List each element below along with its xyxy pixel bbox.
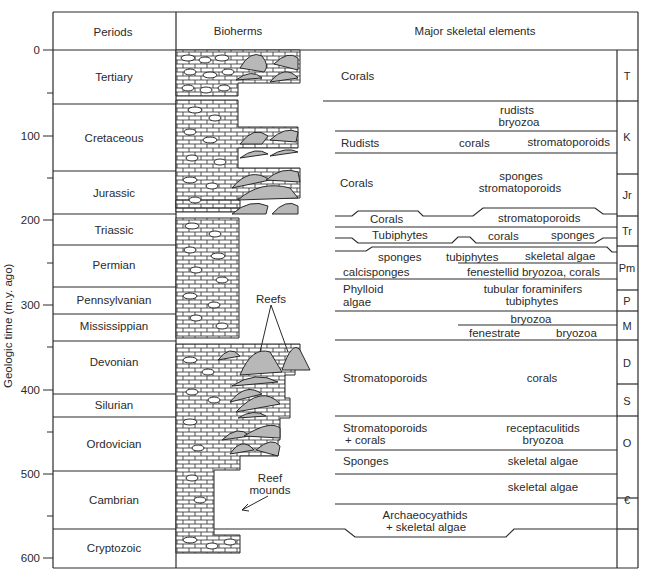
period-cretaceous: Cretaceous xyxy=(85,132,144,144)
skel-tertiary-corals: Corals xyxy=(341,70,374,82)
symbol-mississippian: M xyxy=(622,320,631,332)
skel-pm-tubiphytes: tubiphytes xyxy=(446,251,498,263)
skel-k-rudists-main: Rudists xyxy=(341,137,379,149)
skel-o-receptaculitids: receptaculitids xyxy=(506,422,580,434)
period-cryptozoic: Cryptozoic xyxy=(87,542,141,554)
annotation-reef-mounds-2: mounds xyxy=(250,484,291,496)
period-jurassic: Jurassic xyxy=(93,187,135,199)
skel-m-bryozoa: bryozoa xyxy=(511,313,552,325)
skel-k-bryozoa: bryozoa xyxy=(499,116,540,128)
skel-o-stromatoporoids: Stromatoporoids xyxy=(343,422,427,434)
skel-j-sponges: sponges xyxy=(499,170,542,182)
y-axis-label: Geologic time (m.y. ago) xyxy=(2,264,14,388)
period-cambrian: Cambrian xyxy=(89,494,139,506)
period-devonian: Devonian xyxy=(90,356,139,368)
symbol-permian: Pm xyxy=(619,262,636,274)
period-silurian: Silurian xyxy=(95,399,133,411)
skel-pm-skeletal-algae: skeletal algae xyxy=(525,250,595,262)
symbol-tertiary: T xyxy=(624,70,631,82)
period-permian: Permian xyxy=(93,259,136,271)
skel-pm-fenestellid: fenestellid bryozoa, corals xyxy=(467,266,600,278)
skel-o-bryozoa: bryozoa xyxy=(523,434,564,446)
symbol-cambrian: € xyxy=(624,494,630,506)
period-mississippian: Mississippian xyxy=(80,320,148,332)
skel-m-bryozoa-2: bryozoa xyxy=(556,327,597,339)
annotation-reefs: Reefs xyxy=(256,293,286,305)
skel-tr-corals: Corals xyxy=(370,213,403,225)
y-tick-200: 200 xyxy=(21,214,40,226)
symbol-pennsylvanian: P xyxy=(623,295,630,307)
skel-j-corals: Corals xyxy=(340,177,373,189)
skel-o-skeletal-algae: skeletal algae xyxy=(508,455,578,467)
reef-evolution-diagram: Periods Bioherms Major skeletal elements… xyxy=(0,0,669,578)
symbol-jurassic: Jr xyxy=(622,189,631,201)
symbol-cretaceous: K xyxy=(623,131,630,143)
symbol-silurian: S xyxy=(623,395,630,407)
skel-c-plus-skeletal-algae: + skeletal algae xyxy=(386,521,466,533)
skel-p-tubular-foraminifers: tubular foraminifers xyxy=(484,283,582,295)
skel-c-skeletal-algae: skeletal algae xyxy=(508,481,578,493)
period-triassic: Triassic xyxy=(94,224,133,236)
symbol-triassic: Tr xyxy=(622,225,632,237)
y-axis-ticks xyxy=(43,50,53,558)
skel-tr-stromatoporoids: stromatoporoids xyxy=(498,212,580,224)
period-ordovician: Ordovician xyxy=(87,438,142,450)
skel-tr-corals-2: corals xyxy=(488,230,519,242)
symbol-ordovician: O xyxy=(623,437,632,449)
skel-m-fenestrate: fenestrate xyxy=(469,327,520,339)
y-tick-300: 300 xyxy=(21,299,40,311)
y-tick-400: 400 xyxy=(21,384,40,396)
symbol-devonian: D xyxy=(623,357,631,369)
skel-p-algae: algae xyxy=(343,296,371,308)
skel-o-plus-corals: + corals xyxy=(345,434,386,446)
skel-k-corals: corals xyxy=(459,137,490,149)
skel-pm-sponges: sponges xyxy=(378,251,421,263)
annotation-reef-mounds-1: Reef xyxy=(258,472,282,484)
skel-j-stromatoporoids: stromatoporoids xyxy=(479,182,561,194)
skel-p-tubiphytes: tubiphytes xyxy=(506,295,558,307)
y-tick-0: 0 xyxy=(34,44,40,56)
skel-tr-tubiphytes: Tubiphytes xyxy=(372,229,428,241)
period-pennsylvanian: Pennsylvanian xyxy=(77,294,152,306)
skel-c-archaeocyathids: Archaeocyathids xyxy=(382,509,467,521)
header-bioherms: Bioherms xyxy=(214,25,263,37)
skel-o-sponges: Sponges xyxy=(343,455,388,467)
period-tertiary: Tertiary xyxy=(95,71,133,83)
skel-pm-calcisponges: calcisponges xyxy=(343,266,409,278)
y-tick-600: 600 xyxy=(21,552,40,564)
header-skeletal-elements: Major skeletal elements xyxy=(415,25,536,37)
skel-k-stromatoporoids: stromatoporoids xyxy=(528,136,610,148)
y-tick-500: 500 xyxy=(21,468,40,480)
header-periods: Periods xyxy=(94,26,133,38)
skel-ds-corals: corals xyxy=(527,372,558,384)
skel-tr-sponges: sponges xyxy=(551,229,594,241)
y-tick-100: 100 xyxy=(21,130,40,142)
skel-k-rudists: rudists xyxy=(500,104,534,116)
skel-ds-stromatoporoids: Stromatoporoids xyxy=(343,372,427,384)
skel-p-phylloid: Phylloid xyxy=(343,283,383,295)
